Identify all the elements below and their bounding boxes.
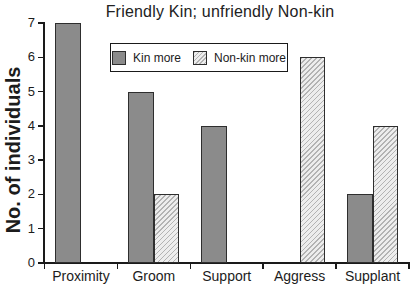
bar-kin-supplant [347,194,373,263]
category-label: Aggress [260,268,340,284]
bar-kin-groom [128,92,154,263]
bar-nonkin-aggress [300,57,326,263]
y-tick [38,228,43,230]
legend-item-kin: Kin more [112,51,181,65]
legend-label-kin: Kin more [133,51,181,65]
legend-box: Kin more Non-kin more [110,43,288,72]
y-tick [38,91,43,93]
legend-label-nonkin: Non-kin more [214,51,286,65]
y-tick [38,262,43,264]
bar-nonkin-groom [154,194,180,263]
y-tick [38,159,43,161]
bar-kin-support [201,126,227,263]
y-tick-label: 0 [17,255,35,271]
bar-kin-proximity [55,23,81,263]
legend-item-nonkin: Non-kin more [193,51,286,65]
y-tick [38,125,43,127]
y-tick [38,194,43,196]
bar-chart-figure: Friendly Kin; unfriendly Non-kin No. of … [0,0,417,294]
y-tick-label: 7 [17,15,35,31]
y-tick-label: 1 [17,221,35,237]
y-tick [38,57,43,59]
bar-nonkin-supplant [373,126,399,263]
y-tick-label: 4 [17,118,35,134]
y-tick-label: 2 [17,186,35,202]
y-tick-label: 3 [17,152,35,168]
category-label: Support [187,268,267,284]
category-label: Groom [114,268,194,284]
y-axis-line [43,22,45,264]
nonkin-swatch-icon [193,51,207,65]
y-tick-label: 6 [17,49,35,65]
category-label: Supplant [333,268,413,284]
chart-title: Friendly Kin; unfriendly Non-kin [28,3,412,21]
kin-swatch-icon [112,51,126,65]
y-tick [38,22,43,24]
category-label: Proximity [41,268,121,284]
y-tick-label: 5 [17,84,35,100]
